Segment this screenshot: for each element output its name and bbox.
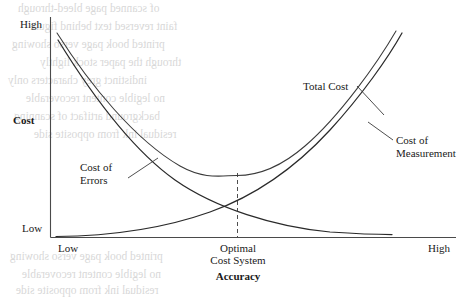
total-cost-annotation: Total Cost	[303, 80, 348, 93]
x-axis-high-label: High	[428, 242, 450, 255]
total-cost-leader-line	[357, 86, 384, 115]
cost-accuracy-chart-figure: of scanned page bleed-through faint reve…	[0, 0, 469, 297]
cost-of-measurement-annotation-line1: Cost of	[396, 134, 428, 147]
total-cost-curve	[57, 31, 396, 176]
cost-of-measurement-leader-line	[368, 122, 393, 140]
y-axis-low-label: Low	[22, 222, 42, 235]
cost-of-errors-curve	[58, 40, 392, 235]
y-axis-title: Cost	[13, 114, 34, 127]
cost-of-errors-leader-line	[128, 158, 158, 178]
y-axis-high-label: High	[20, 18, 42, 31]
cost-of-errors-annotation-line1: Cost of	[80, 161, 112, 174]
optimal-cost-system-label-line2: Cost System	[192, 254, 284, 267]
optimal-cost-system-label-line1: Optimal	[192, 242, 284, 255]
x-axis-title: Accuracy	[192, 270, 284, 283]
cost-of-errors-annotation-line2: Errors	[80, 174, 108, 187]
x-axis-low-label: Low	[58, 242, 78, 255]
cost-of-measurement-curve	[56, 33, 402, 237]
cost-of-measurement-annotation-line2: Measurement	[396, 147, 456, 160]
